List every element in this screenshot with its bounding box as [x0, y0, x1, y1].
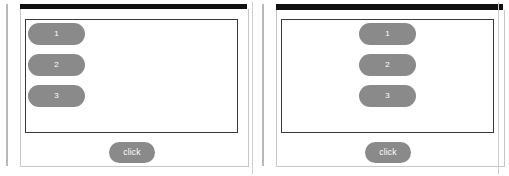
list-item[interactable]: 2	[359, 54, 416, 76]
list-item[interactable]: 3	[359, 85, 416, 107]
list-item[interactable]: 1	[28, 23, 85, 45]
list-item[interactable]: 3	[28, 85, 85, 107]
panel-left-edge-rule	[6, 4, 8, 166]
panel-right: 1 2 3 click	[256, 0, 509, 176]
comparison-stage: 1 2 3 click 1 2 3 click	[0, 0, 509, 176]
click-button[interactable]: click	[109, 142, 155, 163]
panel-separator-rule	[252, 2, 253, 174]
panel-right-content-box: 1 2 3	[281, 19, 494, 133]
list-item[interactable]: 1	[359, 23, 416, 45]
list-item[interactable]: 2	[28, 54, 85, 76]
right-outer-rule	[498, 2, 499, 174]
panel-left: 1 2 3 click	[0, 0, 253, 176]
panel-left-pill-stack: 1 2 3	[26, 23, 237, 107]
click-button[interactable]: click	[365, 142, 411, 163]
panel-right-edge-rule	[262, 4, 264, 166]
panel-left-content-box: 1 2 3	[25, 19, 238, 133]
panel-right-pill-stack: 1 2 3	[282, 23, 493, 107]
